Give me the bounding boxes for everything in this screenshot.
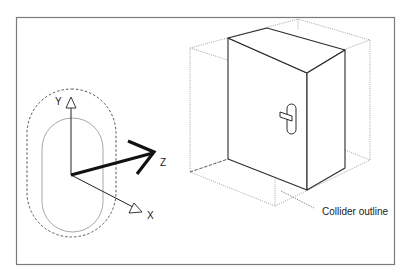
collider-outline-label: Collider outline [322, 207, 388, 217]
z-axis [71, 141, 154, 175]
x-axis [71, 175, 142, 213]
door-figure [190, 19, 370, 208]
door-side-face [307, 50, 345, 190]
x-axis-label: X [147, 211, 154, 221]
z-axis-label: Z [160, 158, 166, 168]
callout-leader-line [281, 191, 314, 208]
y-axis [66, 97, 76, 175]
diagram-canvas [0, 0, 408, 280]
y-axis-label: Y [55, 97, 62, 107]
collider-hidden-edge [190, 159, 228, 172]
y-arrowhead-icon [66, 97, 76, 108]
capsule-figure [27, 89, 154, 237]
x-arrowhead-icon [129, 203, 142, 213]
